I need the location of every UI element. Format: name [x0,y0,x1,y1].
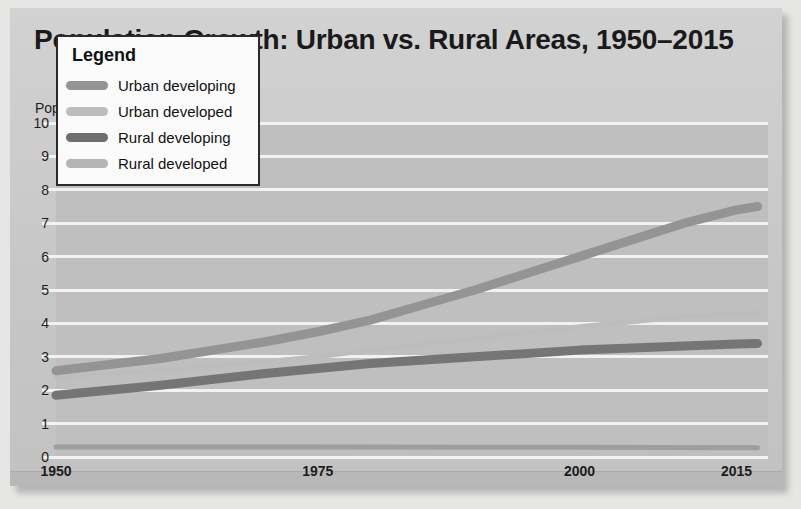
legend-swatch-icon [66,159,108,168]
y-tick-label: 10 [33,115,49,131]
y-tick-label: 6 [41,249,49,265]
x-tick-label: 1975 [302,463,333,479]
legend-title: Legend [58,43,258,72]
y-tick-label: 3 [41,349,49,365]
legend-item[interactable]: Rural developing [58,124,258,150]
panel-bottom-band [10,471,782,486]
y-tick-label: 4 [41,315,49,331]
legend-swatch-icon [66,107,108,116]
legend-swatch-icon [66,133,108,142]
x-tick-label: 2000 [564,463,595,479]
legend-item-label: Urban developed [118,103,232,120]
legend-swatch-icon [66,81,108,90]
y-tick-label: 7 [41,215,49,231]
y-tick-label: 2 [41,382,49,398]
legend-box: Legend Urban developingUrban developedRu… [56,35,260,186]
legend-item-label: Rural developed [118,155,227,172]
x-tick-label: 1950 [40,463,71,479]
x-tick-label: 2015 [721,463,752,479]
legend-item-label: Rural developing [118,129,231,146]
series-line [56,447,758,448]
y-tick-label: 9 [41,148,49,164]
legend-items: Urban developingUrban developedRural dev… [58,72,258,176]
legend-item-label: Urban developing [118,77,236,94]
legend-item[interactable]: Rural developed [58,150,258,176]
chart-panel: Population Growth: Urban vs. Rural Areas… [10,8,782,486]
y-tick-label: 5 [41,282,49,298]
chart-page: Population Growth: Urban vs. Rural Areas… [0,0,801,509]
y-tick-label: 8 [41,182,49,198]
legend-item[interactable]: Urban developing [58,72,258,98]
y-tick-label: 1 [41,416,49,432]
legend-item[interactable]: Urban developed [58,98,258,124]
